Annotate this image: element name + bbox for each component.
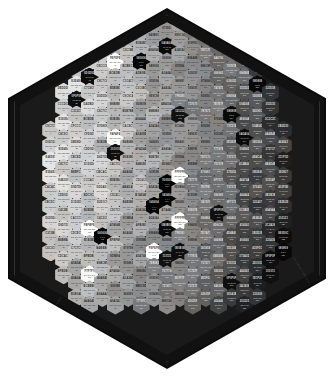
- swatch-index: 138: [152, 86, 155, 88]
- swatch-hex-code: CBCDCF: [109, 28, 121, 31]
- swatch-index: 76: [101, 299, 103, 301]
- swatch-index: 246: [217, 292, 220, 294]
- swatch-index: 129: [139, 246, 142, 248]
- swatch-index: 155: [165, 64, 168, 66]
- swatch-index: 50: [88, 200, 90, 202]
- swatch-index: 188: [178, 269, 181, 271]
- swatch-index: 11: [63, 109, 65, 111]
- swatch-index: 137: [152, 71, 155, 73]
- color-swatch-tile[interactable]: C9C7C4201.199.19639: [81, 22, 98, 41]
- swatch-index: 120: [139, 109, 142, 111]
- swatch-index: 228: [204, 299, 207, 301]
- swatch-index: 109: [127, 223, 130, 225]
- swatch-index: 322: [282, 238, 285, 240]
- swatch-index: 106: [127, 178, 130, 180]
- swatch-index: 189: [178, 284, 181, 286]
- swatch-index: 168: [165, 261, 168, 263]
- swatch-index: 90: [114, 231, 116, 233]
- swatch-index: 88: [114, 200, 116, 202]
- swatch-hex-code: D8D5D1: [84, 43, 95, 46]
- swatch-index: 61: [101, 71, 103, 73]
- swatch-index: 298: [256, 254, 259, 256]
- swatch-index: 303: [269, 109, 272, 111]
- swatch-index: 267: [243, 33, 246, 35]
- swatch-index: 289: [256, 117, 259, 119]
- swatch-hex-code: BBB8B5: [97, 35, 108, 38]
- swatch-index: 258: [230, 178, 233, 180]
- swatch-index: 279: [243, 216, 246, 218]
- swatch-index: 15: [62, 170, 64, 172]
- swatch-index: 320: [282, 208, 285, 210]
- swatch-index: 273: [243, 124, 246, 126]
- swatch-index: 242: [217, 231, 220, 233]
- swatch-index: 169: [165, 276, 168, 278]
- swatch-index: 18: [62, 216, 64, 218]
- swatch-index: 147: [152, 223, 155, 225]
- swatch-hex-code: 4E4B49: [239, 43, 249, 46]
- swatch-index: 206: [191, 261, 194, 263]
- swatch-index: 231: [217, 64, 220, 66]
- swatch-index: 14: [62, 155, 64, 157]
- swatch-index: 275: [243, 155, 246, 157]
- swatch-index: 184: [178, 208, 181, 210]
- swatch-index: 205: [191, 246, 194, 248]
- swatch-index: 251: [230, 71, 233, 73]
- swatch-index: 2: [50, 147, 51, 149]
- swatch-index: 176: [178, 86, 181, 88]
- swatch-index: 277: [243, 185, 246, 187]
- swatch-index: 214: [204, 86, 207, 88]
- swatch-index: 139: [152, 102, 155, 104]
- swatch-index: 315: [282, 132, 285, 134]
- swatch-index: 110: [127, 238, 130, 240]
- swatch-index: 6: [50, 208, 51, 210]
- swatch-index: 302: [269, 94, 272, 96]
- swatch-index: 112: [127, 269, 130, 271]
- swatch-index: 313: [269, 261, 272, 263]
- swatch-index: 79: [114, 64, 116, 66]
- swatch-index: 190: [178, 299, 181, 301]
- color-swatch-tile[interactable]: B8BABC184.186.18858: [94, 22, 111, 33]
- swatch-index: 203: [191, 216, 194, 218]
- swatch-index: 270: [243, 79, 246, 81]
- swatch-index: 85: [114, 155, 116, 157]
- swatch-index: 218: [204, 147, 207, 149]
- swatch-index: 263: [230, 254, 233, 256]
- swatch-rgb-value: 177.178.178: [122, 23, 134, 25]
- swatch-index: 141: [152, 132, 155, 134]
- swatch-index: 301: [256, 299, 259, 301]
- swatch-index: 111: [127, 254, 130, 256]
- swatch-index: 321: [282, 223, 285, 225]
- swatch-index: 46: [88, 140, 90, 142]
- swatch-index: 262: [230, 238, 233, 240]
- swatch-index: 164: [165, 200, 168, 202]
- swatch-index: 284: [243, 292, 246, 294]
- swatch-index: 53: [88, 246, 90, 248]
- swatch-index: 307: [269, 170, 272, 172]
- swatch-index: 102: [127, 117, 130, 119]
- swatch-index: 68: [101, 178, 103, 180]
- swatch-index: 113: [127, 284, 130, 286]
- swatch-index: 183: [178, 193, 181, 195]
- swatch-index: 199: [191, 155, 194, 157]
- swatch-index: 140: [152, 117, 155, 119]
- swatch-index: 77: [114, 33, 116, 35]
- swatch-index: 323: [282, 254, 285, 256]
- swatch-rgb-value: 89.92.94: [228, 23, 236, 25]
- swatch-index: 117: [140, 64, 143, 66]
- swatch-index: 255: [230, 132, 233, 134]
- swatch-index: 52: [88, 231, 90, 233]
- swatch-index: 37: [75, 284, 77, 286]
- swatch-index: 243: [217, 246, 220, 248]
- swatch-index: 222: [204, 208, 207, 210]
- swatch-index: 257: [230, 162, 233, 164]
- swatch-index: 312: [269, 246, 272, 248]
- swatch-index: 170: [165, 292, 168, 294]
- swatch-index: 220: [204, 178, 207, 180]
- swatch-index: 240: [217, 200, 220, 202]
- color-swatch-tile[interactable]: 595C5E89.92.94248: [223, 22, 240, 33]
- swatch-index: 179: [178, 132, 181, 134]
- color-swatch-tile[interactable]: 615F5C97.95.92267: [236, 22, 253, 41]
- swatch-index: 265: [230, 284, 233, 286]
- swatch-index: 26: [75, 117, 77, 119]
- swatch-index: 216: [204, 117, 207, 119]
